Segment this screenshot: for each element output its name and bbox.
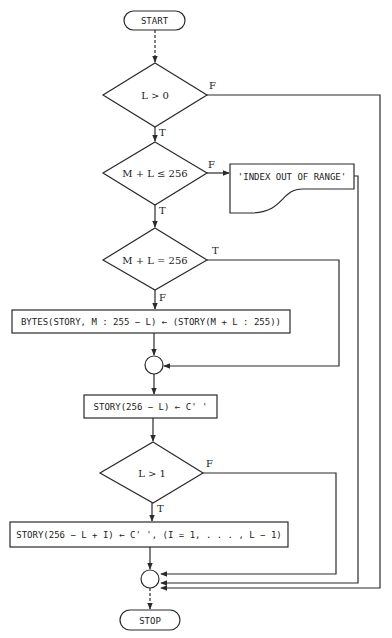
d2-false-flag: F: [208, 159, 215, 170]
d3-true-flag: T: [212, 245, 219, 256]
start-label: START: [141, 16, 169, 26]
stop-terminal: STOP: [120, 610, 180, 630]
d4-true-flag: T: [157, 503, 164, 514]
decision-range-check-label: M + L ≤ 256: [122, 168, 187, 179]
d3-false-flag: F: [159, 292, 166, 303]
decision-range-check: M + L ≤ 256: [103, 142, 207, 205]
process-blank-loop-label: STORY(256 − L + I) ← C' ', (I = 1, . . .…: [16, 530, 282, 540]
d1-true-flag: T: [159, 127, 166, 138]
process-blank-first-label: STORY(256 − L) ← C' ': [94, 402, 208, 412]
process-shift-bytes: BYTES(STORY, M : 255 − L) ← (STORY(M + L…: [12, 310, 290, 333]
flowchart: START L > 0 F T M + L ≤ 256 F T 'INDEX O…: [0, 0, 392, 638]
decision-exact-end-label: M + L = 256: [122, 255, 187, 266]
start-terminal: START: [124, 11, 185, 30]
d2-true-flag: T: [159, 205, 166, 216]
decision-l-gt-0: L > 0: [103, 63, 207, 127]
output-error-label: 'INDEX OUT OF RANGE': [238, 172, 346, 182]
process-shift-bytes-label: BYTES(STORY, M : 255 − L) ← (STORY(M + L…: [21, 317, 281, 327]
decision-l-gt-0-label: L > 0: [141, 90, 169, 101]
junction-2: [141, 570, 159, 588]
d1-false-flag: F: [209, 80, 216, 91]
d4-false-flag: F: [206, 458, 213, 469]
stop-label: STOP: [139, 616, 161, 626]
decision-exact-end: M + L = 256: [103, 228, 207, 290]
process-blank-loop: STORY(256 − L + I) ← C' ', (I = 1, . . .…: [10, 522, 288, 547]
decision-l-gt-1: L > 1: [100, 442, 203, 503]
junction-1: [145, 356, 163, 374]
output-error-message: 'INDEX OUT OF RANGE': [230, 164, 354, 213]
process-blank-first: STORY(256 − L) ← C' ': [84, 395, 217, 418]
decision-l-gt-1-label: L > 1: [138, 468, 166, 479]
